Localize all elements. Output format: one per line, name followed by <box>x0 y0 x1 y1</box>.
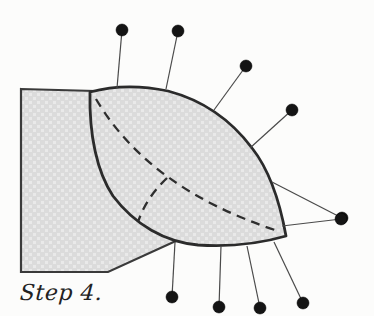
pin <box>250 104 298 148</box>
pin-stem <box>272 182 342 218</box>
pin-head <box>172 25 184 37</box>
pin-head <box>240 60 252 72</box>
pin-head <box>166 291 178 303</box>
illustration-canvas: Step 4. <box>0 0 374 316</box>
pin-stem <box>274 242 303 303</box>
pin <box>213 246 225 313</box>
pin-stem <box>117 30 122 88</box>
pin-head <box>286 104 298 116</box>
pin <box>116 24 128 88</box>
pin-stem <box>250 110 292 148</box>
pin <box>247 246 266 314</box>
pin-stem <box>282 219 341 226</box>
pin <box>274 242 309 309</box>
pin-head <box>335 213 347 225</box>
pin-stem <box>219 246 221 307</box>
step-caption: Step 4. <box>19 282 103 304</box>
pin-head <box>254 302 266 314</box>
pin <box>282 213 347 226</box>
pin <box>214 60 252 110</box>
pin-stem <box>166 31 178 89</box>
pin-stem <box>214 66 246 110</box>
pin-stem <box>247 246 260 308</box>
pin-stem <box>172 242 175 297</box>
pin <box>166 242 178 303</box>
pin-head <box>116 24 128 36</box>
pin <box>166 25 184 89</box>
pin-head <box>297 297 309 309</box>
pin-head <box>213 301 225 313</box>
step-illustration <box>0 0 374 316</box>
